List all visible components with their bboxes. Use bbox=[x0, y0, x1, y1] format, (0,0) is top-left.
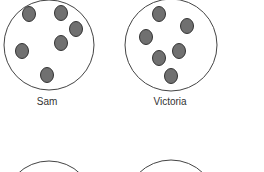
dot bbox=[23, 7, 36, 22]
dot bbox=[153, 51, 166, 66]
dot bbox=[165, 69, 178, 84]
dot bbox=[55, 6, 68, 21]
label-victoria: Victoria bbox=[153, 96, 186, 107]
group-circle-unlabeled-right bbox=[125, 160, 217, 172]
diagram-canvas bbox=[0, 0, 264, 172]
dot bbox=[153, 7, 166, 22]
group-circle-unlabeled-left bbox=[4, 161, 94, 172]
dot bbox=[55, 36, 68, 51]
dot bbox=[41, 68, 54, 83]
label-sam: Sam bbox=[37, 96, 58, 107]
dot bbox=[140, 30, 153, 45]
dot bbox=[181, 19, 194, 34]
dot bbox=[16, 44, 29, 59]
dot bbox=[70, 22, 83, 37]
dot bbox=[173, 44, 186, 59]
